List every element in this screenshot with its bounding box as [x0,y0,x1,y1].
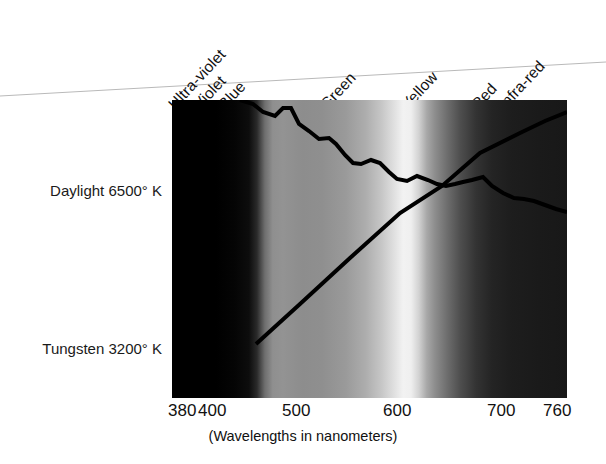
axis-tick-700: 700 [487,401,515,421]
axis-tick-760: 760 [543,401,571,421]
curves-layer [172,100,567,398]
spectrum-plot-area [172,100,567,398]
series-label-tungsten: Tungsten 3200° K [0,340,162,357]
axis-tick-600: 600 [383,401,411,421]
series-label-daylight: Daylight 6500° K [0,182,162,199]
axis-tick-500: 500 [282,401,310,421]
figure-root: Ultra-violet Violet Blue Green Yellow Re… [0,0,606,464]
curve-tungsten-3200k [256,112,567,344]
axis-tick-380: 380 [168,401,196,421]
axis-tick-400: 400 [198,401,226,421]
axis-caption: (Wavelengths in nanometers) [0,428,606,444]
curve-daylight-6500k [240,100,567,212]
